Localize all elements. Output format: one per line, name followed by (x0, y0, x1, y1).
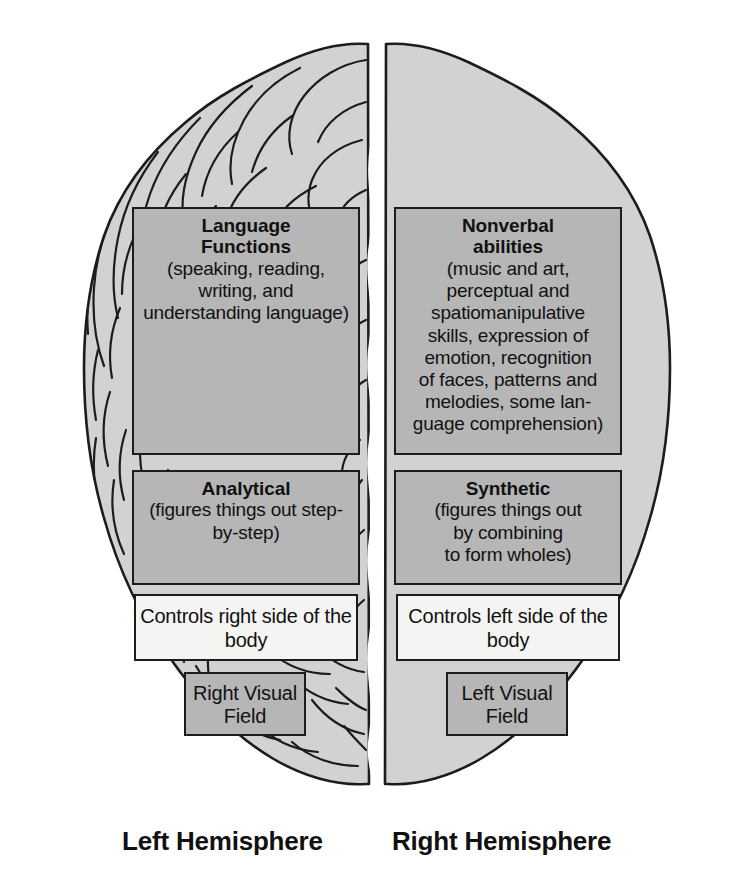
brain-illustration (0, 0, 743, 884)
longitudinal-fissure (372, 44, 377, 786)
left-visual-field-text: Left Visual Field (452, 682, 562, 729)
left-language-functions-box[interactable]: Language Functions (speaking, reading, w… (132, 207, 360, 455)
right-controls-body-side-text: Controls left side of the body (402, 605, 614, 652)
left-analytical-body: (figures things out step-by-step) (138, 499, 354, 543)
right-visual-field-text: Right Visual Field (190, 682, 300, 729)
right-visual-field-box[interactable]: Right Visual Field (184, 672, 306, 736)
left-visual-field-box[interactable]: Left Visual Field (446, 672, 568, 736)
right-nonverbal-abilities-title: Nonverbal abilities (462, 215, 554, 258)
right-nonverbal-abilities-body: (music and art, perceptual and spatioman… (413, 258, 603, 436)
right-nonverbal-abilities-box[interactable]: Nonverbal abilities (music and art, perc… (394, 207, 622, 455)
left-analytical-title: Analytical (202, 478, 291, 499)
left-controls-body-side-box[interactable]: Controls right side of the body (134, 594, 358, 661)
right-synthetic-box[interactable]: Synthetic (figures things out by combini… (394, 470, 622, 585)
right-synthetic-title: Synthetic (466, 478, 551, 499)
right-hemisphere-caption: Right Hemisphere (392, 826, 611, 857)
left-language-functions-title: Language Functions (201, 215, 291, 258)
brain-diagram-figure: Language Functions (speaking, reading, w… (0, 0, 743, 884)
right-synthetic-body: (figures things out by combining to form… (434, 499, 581, 566)
right-controls-body-side-box[interactable]: Controls left side of the body (396, 594, 620, 661)
left-language-functions-body: (speaking, reading, writing, and underst… (138, 258, 354, 325)
left-controls-body-side-text: Controls right side of the body (140, 605, 352, 652)
left-analytical-box[interactable]: Analytical (figures things out step-by-s… (132, 470, 360, 585)
left-hemisphere-caption: Left Hemisphere (122, 826, 323, 857)
